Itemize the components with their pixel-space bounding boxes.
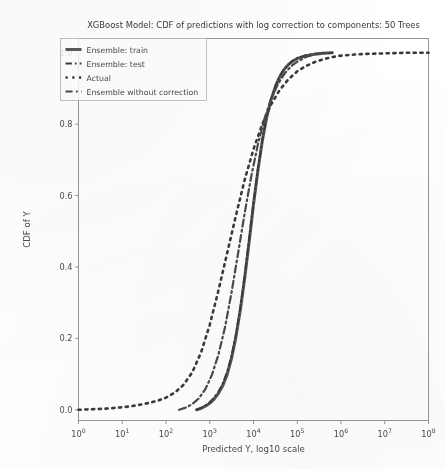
legend-label-0: Ensemble: train [87, 46, 149, 55]
x-tick-label: 101 [115, 427, 129, 439]
y-tick-label: 0.4 [59, 262, 72, 272]
x-tick-label: 100 [71, 427, 85, 439]
x-axis-label: Predicted Y, log10 scale [202, 444, 305, 454]
x-tick-label: 102 [159, 427, 173, 439]
chart-title: XGBoost Model: CDF of predictions with l… [87, 20, 420, 30]
series-group [79, 53, 429, 410]
legend-label-1: Ensemble: test [87, 60, 145, 69]
figure-canvas: 100101102103104105106107108Predicted Y, … [0, 0, 445, 469]
x-tick-label: 106 [334, 427, 348, 439]
x-axis: 100101102103104105106107108Predicted Y, … [71, 421, 435, 454]
series-line-2 [79, 53, 429, 410]
x-tick-label: 104 [246, 427, 260, 439]
legend: Ensemble: trainEnsemble: testActualEnsem… [61, 39, 207, 101]
y-tick-label: 0.2 [59, 333, 72, 343]
legend-label-2: Actual [87, 74, 111, 83]
x-tick-label: 105 [290, 427, 304, 439]
y-tick-label: 0.6 [59, 191, 72, 201]
y-tick-label: 0.8 [59, 119, 72, 129]
legend-label-3: Ensemble without correction [87, 88, 199, 97]
y-axis: 0.00.20.40.60.81.0CDF of Y [22, 48, 79, 415]
y-axis-label: CDF of Y [22, 210, 32, 247]
x-tick-label: 103 [203, 427, 217, 439]
x-tick-label: 107 [378, 427, 392, 439]
x-tick-label: 108 [421, 427, 435, 439]
cdf-chart: 100101102103104105106107108Predicted Y, … [0, 0, 445, 469]
y-tick-label: 0.0 [59, 405, 72, 415]
